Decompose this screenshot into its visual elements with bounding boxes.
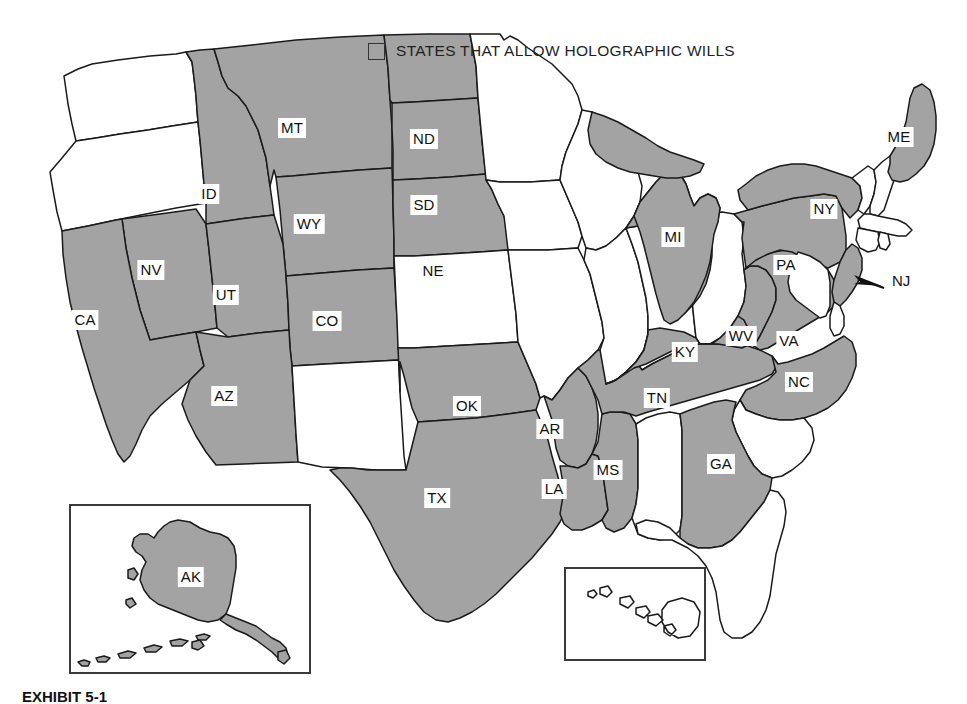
us-map-container: MT ND ID SD WY ME NY MI NE NV PA UT CA C… (0, 0, 967, 704)
state-label-mt: MT (278, 118, 306, 138)
nj-callout-label: NJ (892, 272, 910, 289)
state-label-nv: NV (137, 260, 164, 280)
filled-square-icon (368, 43, 385, 60)
state-de[interactable] (830, 302, 844, 336)
map-legend: STATES THAT ALLOW HOLOGRAPHIC WILLS (368, 42, 735, 60)
state-nm[interactable] (292, 360, 406, 470)
exhibit-caption: EXHIBIT 5-1 (22, 688, 107, 704)
state-ct[interactable] (856, 228, 880, 252)
state-label-ut: UT (213, 285, 239, 305)
state-label-va: VA (776, 331, 801, 351)
state-label-ga: GA (707, 454, 735, 474)
state-label-ok: OK (453, 396, 481, 416)
state-label-ms: MS (594, 460, 623, 480)
state-label-tn: TN (644, 388, 670, 408)
state-az[interactable] (182, 330, 298, 465)
state-label-mi: MI (661, 227, 684, 247)
arrow-left-icon (848, 271, 892, 293)
state-label-ny: NY (810, 199, 837, 219)
state-label-ar: AR (536, 419, 563, 439)
state-label-id: ID (198, 184, 219, 204)
state-label-ne: NE (419, 261, 446, 281)
state-label-az: AZ (211, 386, 237, 406)
state-label-pa: PA (773, 255, 798, 275)
state-al[interactable] (632, 412, 682, 540)
state-label-ak: AK (178, 567, 204, 587)
state-label-tx: TX (424, 488, 450, 508)
state-label-wv: WV (726, 326, 757, 346)
state-ut[interactable] (206, 215, 289, 337)
state-label-nc: NC (785, 372, 813, 392)
legend-label: STATES THAT ALLOW HOLOGRAPHIC WILLS (396, 42, 735, 60)
state-label-ky: KY (672, 342, 698, 362)
state-label-me: ME (885, 127, 914, 147)
state-ks[interactable] (394, 250, 518, 348)
state-label-wy: WY (294, 214, 325, 234)
state-sd[interactable] (392, 98, 486, 180)
caption-exhibit-number: EXHIBIT 5-1 (22, 688, 107, 704)
state-co[interactable] (286, 268, 399, 366)
state-label-ca: CA (71, 310, 98, 330)
state-label-la: LA (542, 479, 567, 499)
us-map-svg (0, 0, 967, 704)
state-label-sd: SD (410, 195, 437, 215)
state-label-nd: ND (410, 129, 438, 149)
state-ri[interactable] (878, 232, 890, 250)
state-label-co: CO (313, 311, 342, 331)
